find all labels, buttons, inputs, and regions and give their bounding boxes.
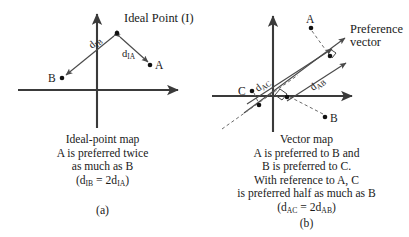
- panel-a-caption-line-2: A is preferred twice: [0, 147, 205, 161]
- preference-vector-label-line1: Preference: [350, 22, 403, 36]
- panel-b-caption-line-3: B is preferred to C.: [204, 160, 409, 174]
- point-b-dot: [60, 76, 65, 81]
- panel-b-projection-lines: [222, 31, 330, 129]
- distance-label-dab-group: dAB: [308, 75, 328, 95]
- panel-a-caption: Ideal-point map A is preferred twice as …: [0, 133, 205, 190]
- point-a-dot: [148, 63, 153, 68]
- perpendicular-baseline: [222, 75, 298, 129]
- projection-line-b: [288, 96, 323, 114]
- distance-label-dac: dAC: [253, 76, 273, 96]
- panel-a-caption-line-1: Ideal-point map: [0, 133, 205, 147]
- panel-a-caption-line-3: as much as B: [0, 160, 205, 174]
- distance-label-dab: dAB: [308, 75, 328, 95]
- panel-a-formula-prefix: (d: [76, 174, 86, 187]
- panel-a-caption-formula: (dIB = 2dIA): [0, 174, 205, 190]
- panel-b-caption-formula: (dAC = 2dAB): [204, 201, 409, 217]
- panel-a-distance-arrows: [66, 36, 148, 75]
- point-b-label: B: [48, 72, 56, 84]
- point-ideal-dot: [115, 31, 120, 36]
- point-b-b-dot: [323, 115, 328, 120]
- panel-b-letter: (b): [204, 217, 409, 231]
- point-b-a-label: A: [306, 13, 315, 25]
- panel-a-formula-suffix: ): [125, 174, 129, 187]
- panel-b-right-angle-markers: [275, 49, 336, 100]
- projection-dot-c: [257, 103, 262, 108]
- point-a-label: A: [155, 59, 164, 71]
- point-b-a-dot: [309, 26, 314, 31]
- preference-vector-label-line2: vector: [350, 35, 382, 49]
- panel-b-caption-line-1: Vector map: [204, 133, 409, 147]
- panel-a-letter: (a): [0, 203, 205, 218]
- panel-a-points: [60, 31, 153, 81]
- distance-label-dib-group: dIB: [86, 34, 104, 52]
- panel-a-formula-middle: = 2d: [93, 174, 117, 187]
- panel-b-formula-sub1: AC: [287, 206, 298, 215]
- panel-b-caption-line-2: A is preferred to B and: [204, 147, 409, 161]
- panel-b-formula-prefix: (d: [277, 201, 287, 214]
- ideal-point-label: Ideal Point (I): [124, 11, 194, 25]
- distance-label-dac-group: dAC: [253, 76, 273, 96]
- projection-dot-b: [285, 95, 290, 100]
- panel-b-points: [250, 26, 333, 120]
- panel-b-formula-middle: = 2d: [297, 201, 321, 214]
- point-b-b-label: B: [330, 112, 338, 124]
- figure-root: Ideal Point (I) A B dIB dIA: [0, 0, 409, 237]
- distance-label-dia: dIA: [122, 48, 136, 61]
- distance-label-dia-group: dIA: [122, 48, 136, 61]
- point-b-c-label: C: [238, 85, 246, 97]
- projection-dot-a: [328, 54, 333, 59]
- panel-b-formula-suffix: ): [332, 201, 336, 214]
- panel-b-caption-line-4: With reference to A, C: [204, 174, 409, 188]
- panel-b-caption-line-5: is preferred half as much as B: [204, 187, 409, 201]
- panel-b-formula-sub2: AB: [321, 206, 332, 215]
- panel-a-formula-sub2: IA: [117, 178, 125, 187]
- panel-b-caption: Vector map A is preferred to B and B is …: [204, 133, 409, 231]
- distance-label-dib: dIB: [86, 34, 104, 52]
- point-b-c-dot: [250, 89, 255, 94]
- panel-a-axes: [18, 14, 178, 128]
